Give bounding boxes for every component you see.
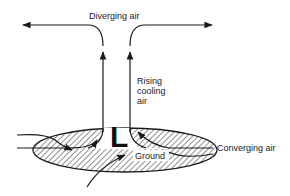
converging-air-label: Converging air	[217, 143, 276, 153]
rising-label-line1: Rising	[137, 76, 162, 86]
diverging-arrow-left	[23, 25, 103, 46]
diverging-arrow-right	[130, 25, 212, 46]
ground-label: Ground	[135, 151, 165, 161]
diverging-air-label: Diverging air	[89, 11, 140, 21]
diverging-arrows	[23, 25, 212, 46]
rising-label-line3: air	[137, 96, 147, 106]
low-pressure-diagram: Diverging air Rising cooling air L Groun…	[0, 0, 290, 196]
rising-label-line2: cooling	[137, 86, 166, 96]
low-pressure-symbol: L	[110, 120, 128, 153]
